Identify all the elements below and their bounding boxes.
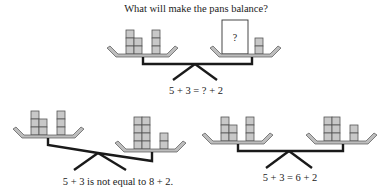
- balance-diagrams: What will make the pans balance? ? 5 + 3: [0, 0, 392, 196]
- beam: [238, 144, 343, 151]
- balance-bottom-right: 5 + 3 = 6 + 2: [202, 117, 377, 183]
- unknown-label: ?: [233, 32, 238, 43]
- right-pan-blocks: [255, 38, 263, 54]
- left-pan: [107, 46, 178, 57]
- left-pan-blocks: [31, 111, 65, 135]
- balance-bottom-left: 5 + 3 is not equal to 8 + 2.: [13, 111, 186, 187]
- right-pan: [306, 133, 377, 144]
- title: What will make the pans balance?: [124, 3, 268, 14]
- right-pan: [115, 141, 186, 152]
- left-pan-blocks: [221, 117, 254, 141]
- left-pan-blocks: [126, 30, 160, 54]
- beam: [143, 57, 252, 64]
- caption-top: 5 + 3 = ? + 2: [169, 85, 223, 96]
- right-pan-blocks: [324, 117, 358, 141]
- fulcrum-left-leg: [173, 64, 195, 80]
- fulcrum-left-leg: [266, 151, 289, 168]
- balance-top: ? 5 + 3 = ? + 2: [107, 20, 281, 96]
- fulcrum-left-leg: [74, 153, 98, 170]
- left-pan: [13, 127, 84, 138]
- fulcrum-right-leg: [289, 151, 312, 168]
- caption-bottom-left: 5 + 3 is not equal to 8 + 2.: [63, 176, 173, 187]
- right-pan-blocks: [134, 117, 168, 149]
- fulcrum-right-leg: [195, 64, 217, 80]
- caption-bottom-right: 5 + 3 = 6 + 2: [263, 172, 318, 183]
- left-pan: [202, 133, 273, 144]
